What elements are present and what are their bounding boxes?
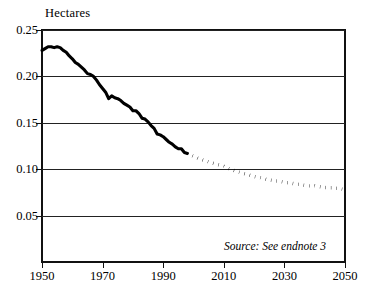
y-tick-label: 0.05 <box>16 208 38 223</box>
gridline-y <box>42 76 345 77</box>
chart-container: Hectares 0.050.100.150.200.25 1950197019… <box>0 0 367 299</box>
y-tick-label: 0.15 <box>16 115 38 130</box>
x-tick-mark <box>42 262 43 268</box>
x-tick-label: 1950 <box>30 269 55 284</box>
y-tick-label: 0.20 <box>16 69 38 84</box>
x-tick-label: 2010 <box>211 269 236 284</box>
x-tick-mark <box>345 262 346 268</box>
x-tick-label: 2050 <box>333 269 358 284</box>
y-axis-title: Hectares <box>45 6 90 21</box>
x-tick-mark <box>103 262 104 268</box>
y-tick-label: 0.10 <box>16 162 38 177</box>
x-tick-label: 1990 <box>151 269 176 284</box>
x-tick-mark <box>284 262 285 268</box>
source-note: Source: See endnote 3 <box>224 240 326 252</box>
gridline-y <box>42 30 345 31</box>
y-tick-label: 0.25 <box>16 23 38 38</box>
gridline-y <box>42 216 345 217</box>
x-tick-label: 2030 <box>272 269 297 284</box>
plot-area <box>42 30 345 262</box>
x-tick-mark <box>224 262 225 268</box>
gridline-y <box>42 123 345 124</box>
gridline-y <box>42 169 345 170</box>
x-tick-mark <box>163 262 164 268</box>
x-tick-label: 1970 <box>90 269 115 284</box>
